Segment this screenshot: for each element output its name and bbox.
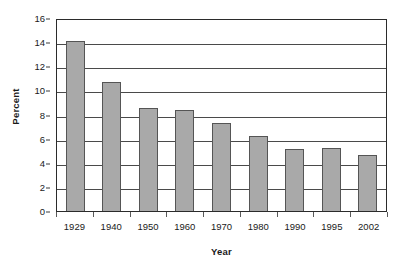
bar-slot: [276, 20, 313, 211]
y-tick-label: 16: [34, 14, 45, 24]
x-tick-mark: [313, 212, 314, 217]
bar-1995[interactable]: [322, 148, 341, 211]
x-tick-label: 2002: [350, 221, 387, 232]
x-tick-label: 1950: [130, 221, 167, 232]
x-axis-ticks: [56, 212, 387, 218]
bar-slot: [167, 20, 204, 211]
bar-slot: [313, 20, 350, 211]
x-tick-mark: [277, 212, 278, 217]
x-tick-label: 1970: [203, 221, 240, 232]
y-tick-label: 4: [40, 159, 45, 169]
bar-slot: [240, 20, 277, 211]
bar-chart: Percent 0246810121416 192919401950196019…: [0, 0, 405, 275]
bar-slot: [130, 20, 167, 211]
y-tick-label: 10: [34, 87, 45, 97]
bar-1970[interactable]: [212, 123, 231, 211]
y-tick-label: 8: [40, 111, 45, 121]
bar-slot: [94, 20, 131, 211]
x-tick-mark: [130, 212, 131, 217]
bar-slot: [350, 20, 387, 211]
bar-series: [57, 20, 386, 211]
y-tick-mark: [46, 187, 50, 188]
y-tick-mark: [46, 115, 50, 116]
x-tick-label: 1960: [166, 221, 203, 232]
x-axis-labels: 192919401950196019701980199019952002: [56, 221, 387, 232]
y-tick-label: 2: [40, 183, 45, 193]
bar-slot: [57, 20, 94, 211]
y-tick-mark: [46, 67, 50, 68]
x-tick-mark: [350, 212, 351, 217]
bar-1960[interactable]: [175, 110, 194, 211]
x-tick-label: 1995: [313, 221, 350, 232]
plot-area: [56, 19, 387, 212]
bar-1990[interactable]: [285, 149, 304, 211]
y-tick-mark: [46, 139, 50, 140]
y-tick-mark: [46, 91, 50, 92]
bar-1980[interactable]: [249, 136, 268, 211]
x-tick-mark: [166, 212, 167, 217]
y-tick-label: 14: [34, 38, 45, 48]
bar-2002[interactable]: [358, 155, 377, 211]
y-axis-ticks: 0246810121416: [24, 19, 50, 212]
x-axis-title: Year: [56, 246, 387, 257]
y-axis-title: Percent: [6, 0, 24, 212]
x-tick-mark: [93, 212, 94, 217]
x-tick-label: 1980: [240, 221, 277, 232]
y-tick-label: 0: [40, 207, 45, 217]
y-tick-mark: [46, 43, 50, 44]
y-tick-label: 6: [40, 135, 45, 145]
x-tick-label: 1940: [93, 221, 130, 232]
x-tick-mark: [387, 212, 388, 217]
x-tick-mark: [203, 212, 204, 217]
x-tick-label: 1990: [277, 221, 314, 232]
bar-1940[interactable]: [102, 82, 121, 211]
bar-slot: [203, 20, 240, 211]
bar-1950[interactable]: [139, 108, 158, 211]
y-tick-mark: [46, 163, 50, 164]
y-tick-mark: [46, 212, 50, 213]
x-tick-mark: [240, 212, 241, 217]
x-tick-label: 1929: [56, 221, 93, 232]
y-tick-label: 12: [34, 63, 45, 73]
y-axis-title-text: Percent: [10, 88, 21, 124]
y-tick-mark: [46, 19, 50, 20]
x-tick-mark: [56, 212, 57, 217]
bar-1929[interactable]: [66, 41, 85, 211]
